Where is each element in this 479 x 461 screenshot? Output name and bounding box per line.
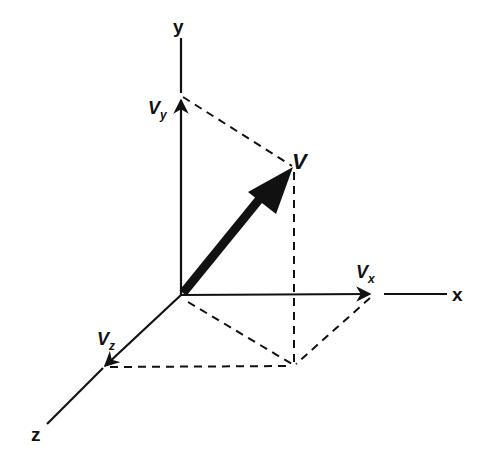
projection-lines	[110, 97, 370, 367]
vx-label: Vx	[356, 262, 376, 286]
x-axis-label: x	[452, 284, 463, 305]
vy-label: Vy	[148, 98, 168, 122]
vector-diagram: y x z V Vy Vx Vz	[0, 0, 479, 461]
vector-v-arrow	[183, 167, 293, 293]
z-axis	[47, 295, 181, 424]
z-axis-label: z	[31, 424, 41, 445]
vz-label: Vz	[97, 329, 115, 353]
y-axis-label: y	[173, 16, 184, 37]
vector-v-label: V	[292, 149, 309, 174]
x-axis	[181, 294, 447, 295]
